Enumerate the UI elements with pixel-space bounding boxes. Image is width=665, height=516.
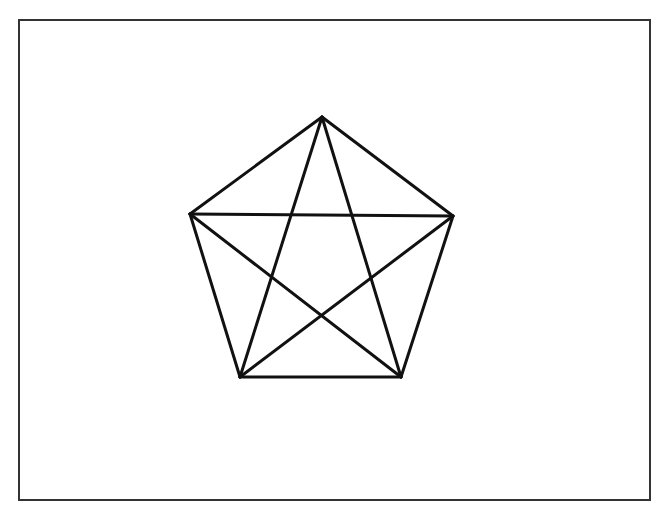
edge-side-top-right [322, 117, 453, 216]
pentagon-with-diagonals [0, 0, 665, 516]
edge-side-left-top [190, 117, 322, 214]
edge-diagonal-right-left [190, 214, 453, 216]
edge-diagonal-right-bottom-left [240, 216, 453, 377]
edge-diagonal-top-bottom-left [240, 117, 322, 377]
edge-diagonal-bottom-right-left [190, 214, 401, 377]
diagram-canvas [0, 0, 665, 516]
edge-diagonal-top-bottom-right [322, 117, 401, 377]
edge-side-right-bottom-right [401, 216, 453, 377]
edge-side-bottom-left-left [190, 214, 240, 377]
graph-edges [190, 117, 453, 377]
